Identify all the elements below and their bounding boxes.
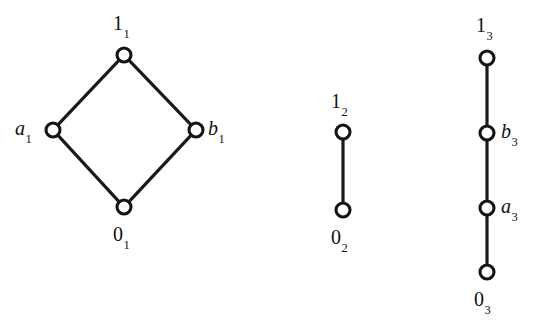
lattice-node-bottom-03 (480, 265, 494, 279)
lattice-node-right-b1 (189, 123, 203, 137)
node-label-base: 1 (476, 14, 486, 36)
node-label-subscript: 1 (219, 132, 225, 146)
lattice-node-bottom-02 (336, 203, 350, 217)
node-label-left-a1: a1 (15, 118, 31, 143)
lattice-edge (57, 60, 119, 126)
node-label-subscript: 3 (512, 210, 518, 224)
node-label-subscript: 2 (342, 241, 348, 255)
lattice-edge (128, 60, 191, 126)
hasse-diagram-figure: 11a1b101120213b3a303 (0, 0, 545, 331)
node-label-subscript: 2 (342, 105, 348, 119)
lattice-node-node-a3 (480, 201, 494, 215)
lattice-node-top-12 (336, 125, 350, 139)
lattice-node-left-a1 (46, 123, 60, 137)
node-label-base: 1 (113, 12, 123, 34)
node-label-bottom-01: 01 (113, 224, 129, 249)
node-label-subscript: 1 (26, 132, 32, 146)
node-label-right-b1: b1 (208, 118, 224, 143)
lattice-edge (57, 135, 119, 203)
lattice-edge (128, 135, 191, 203)
node-label-base: b (208, 117, 218, 139)
node-label-base: b (501, 120, 511, 142)
node-label-subscript: 3 (487, 29, 493, 43)
lattice-node-node-b3 (480, 126, 494, 140)
node-label-top-1: 11 (113, 13, 129, 38)
node-label-top-12: 12 (331, 91, 347, 116)
node-label-base: 1 (331, 90, 341, 112)
node-label-node-a3: a3 (501, 196, 517, 221)
lattice-diagrams-canvas (0, 0, 545, 331)
node-label-base: 0 (331, 226, 341, 248)
node-label-base: a (501, 195, 511, 217)
node-label-subscript: 1 (124, 27, 130, 41)
node-label-node-b3: b3 (501, 121, 517, 146)
node-label-subscript: 1 (124, 238, 130, 252)
node-label-subscript: 3 (485, 303, 491, 317)
node-label-subscript: 3 (512, 135, 518, 149)
node-label-bottom-02: 02 (331, 227, 347, 252)
lattice-node-bottom-01 (117, 200, 131, 214)
node-label-bottom-03: 03 (474, 289, 490, 314)
lattice-node-top-1 (117, 48, 131, 62)
node-label-base: a (15, 117, 25, 139)
node-label-base: 0 (474, 288, 484, 310)
node-label-base: 0 (113, 223, 123, 245)
lattice-node-top-13 (480, 51, 494, 65)
node-label-top-13: 13 (476, 15, 492, 40)
